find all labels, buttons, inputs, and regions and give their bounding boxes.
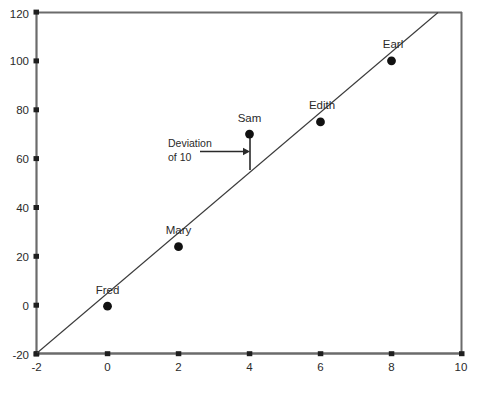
x-tick-label: 6 xyxy=(317,361,323,373)
point-label-sam: Sam xyxy=(238,112,262,124)
x-tick-label: 8 xyxy=(388,361,394,373)
x-tick-marker xyxy=(459,351,465,356)
x-axis-tick-labels: -2 0 2 4 6 8 10 xyxy=(31,361,467,373)
x-tick-marker xyxy=(389,351,395,356)
chart-canvas: -20 0 20 40 60 80 100 120 -2 0 2 4 6 8 1… xyxy=(0,0,480,396)
y-tick-label: 40 xyxy=(16,202,29,214)
y-tick-marker xyxy=(34,156,40,161)
data-point-earl[interactable] xyxy=(387,56,396,65)
y-tick-label: -20 xyxy=(12,349,29,361)
x-tick-marker xyxy=(247,351,253,356)
y-tick-marker xyxy=(34,58,40,63)
y-axis-tick-labels: -20 0 20 40 60 80 100 120 xyxy=(10,8,29,361)
plot-area-background xyxy=(36,12,462,354)
data-point-sam[interactable] xyxy=(245,130,254,139)
x-tick-label: 10 xyxy=(455,361,468,373)
y-tick-marker xyxy=(34,107,40,112)
point-label-earl: Earl xyxy=(383,38,403,50)
scatter-plot-figure: -20 0 20 40 60 80 100 120 -2 0 2 4 6 8 1… xyxy=(0,0,480,396)
x-tick-label: 4 xyxy=(246,361,253,373)
data-point-fred[interactable] xyxy=(103,302,112,311)
data-point-edith[interactable] xyxy=(316,118,325,127)
point-label-mary: Mary xyxy=(166,224,192,236)
x-tick-marker xyxy=(176,351,182,356)
y-tick-label: 120 xyxy=(10,8,29,20)
y-tick-marker xyxy=(34,205,40,210)
x-tick-label: 0 xyxy=(104,361,110,373)
y-tick-marker xyxy=(34,10,40,15)
data-point-mary[interactable] xyxy=(174,242,183,251)
y-tick-label: 0 xyxy=(23,300,29,312)
x-tick-marker xyxy=(105,351,111,356)
point-label-fred: Fred xyxy=(96,284,120,296)
y-tick-marker xyxy=(34,254,40,259)
y-tick-label: 60 xyxy=(16,153,29,165)
point-label-edith: Edith xyxy=(309,99,335,111)
deviation-label-line1: Deviation xyxy=(168,137,212,149)
x-tick-label: 2 xyxy=(175,361,181,373)
x-tick-label: -2 xyxy=(31,361,41,373)
y-tick-label: 100 xyxy=(10,55,29,67)
y-tick-label: 20 xyxy=(16,251,29,263)
y-tick-label: 80 xyxy=(16,104,29,116)
deviation-label-line2: of 10 xyxy=(168,151,192,163)
y-tick-marker xyxy=(34,303,40,308)
x-tick-marker xyxy=(318,351,324,356)
